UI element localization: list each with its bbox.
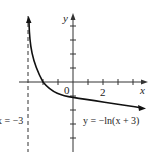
asymptote-label: x = −3 — [0, 115, 23, 126]
function-label: y = −ln(x + 3) — [83, 115, 139, 127]
function-curve — [29, 22, 142, 108]
x-tick-label-2: 2 — [100, 86, 106, 98]
curve-end-arrow-icon — [138, 105, 146, 111]
y-axis-arrow-icon — [71, 13, 76, 20]
graph: y x 0 2 x = −3 y = −ln(x + 3) — [0, 0, 154, 156]
x-axis-label: x — [139, 84, 145, 96]
y-axis-label: y — [62, 12, 68, 24]
origin-label: 0 — [64, 84, 70, 96]
curve-start-arrow-icon — [26, 16, 32, 23]
